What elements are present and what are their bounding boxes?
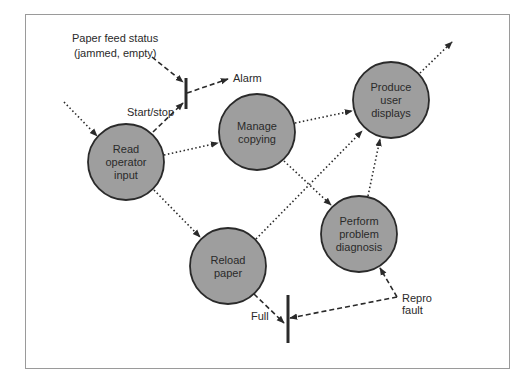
full-label: Full	[251, 310, 269, 322]
process-label: Read	[113, 143, 139, 155]
flow-diagnose-to-produce	[368, 139, 380, 196]
process-label: Manage	[237, 120, 277, 132]
process-label: Perform	[339, 215, 378, 227]
process-node-manage: Managecopying	[219, 94, 295, 170]
process-label: user	[380, 94, 402, 106]
flow-read-to-manage	[164, 143, 218, 155]
process-label: Reload	[211, 254, 246, 266]
process-node-read: Readoperatorinput	[88, 124, 164, 200]
process-label: displays	[371, 107, 411, 119]
process-label: paper	[214, 267, 242, 279]
process-label: Produce	[371, 81, 412, 93]
alarm-label: Alarm	[233, 72, 262, 84]
control-paper-feed	[152, 57, 183, 82]
process-node-diagnose: Performproblemdiagnosis	[321, 196, 397, 272]
control-repro-to-bar	[290, 297, 397, 318]
flow-produce-out	[420, 42, 452, 73]
flow-in-to-read	[64, 102, 97, 136]
paper-feed-label-line2: (jammed, empty)	[74, 47, 157, 59]
flow-manage-to-produce	[295, 111, 352, 123]
process-label: copying	[238, 133, 276, 145]
control-alarm	[187, 79, 228, 93]
flow-read-to-reload	[154, 190, 200, 237]
process-node-reload: Reloadpaper	[190, 228, 266, 304]
repro-label-line1: Repro	[402, 292, 432, 304]
process-node-produce: Produceuserdisplays	[353, 62, 429, 138]
control-repro-to-diagnose	[380, 268, 397, 297]
process-label: input	[114, 169, 138, 181]
process-label: problem	[339, 228, 379, 240]
flow-manage-to-diagnose	[284, 161, 331, 205]
process-label: operator	[106, 156, 147, 168]
process-label: diagnosis	[336, 241, 383, 253]
paper-feed-label-line1: Paper feed status	[72, 32, 159, 44]
start-stop-label: Start/stop	[127, 106, 174, 118]
repro-label-line2: fault	[402, 304, 423, 316]
